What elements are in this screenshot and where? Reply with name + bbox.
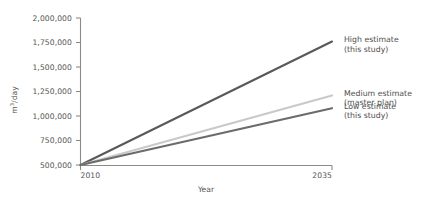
y-tick-label: 750,000 xyxy=(40,136,72,145)
line-chart: 500,000750,0001,000,0001,250,0001,500,00… xyxy=(0,0,427,204)
series-label-line1: High estimate xyxy=(344,35,399,44)
series-label-line2: (this study) xyxy=(344,45,388,54)
series-label-line1: Medium estimate xyxy=(344,89,412,98)
x-tick-label: 2010 xyxy=(81,171,101,180)
series-line xyxy=(81,108,333,165)
series-line xyxy=(81,95,333,165)
y-tick-label: 1,500,000 xyxy=(32,63,72,72)
y-tick-label: 500,000 xyxy=(40,161,72,170)
chart-container: 500,000750,0001,000,0001,250,0001,500,00… xyxy=(0,0,427,204)
x-axis-title: Year xyxy=(197,185,215,194)
y-tick-label: 2,000,000 xyxy=(32,14,72,23)
series-label-line1: Low estimate xyxy=(344,102,396,111)
x-axis-tick-labels: 20102035 xyxy=(81,171,333,180)
series-lines xyxy=(81,42,333,165)
y-tick-label: 1,000,000 xyxy=(32,112,72,121)
y-tick-label: 1,750,000 xyxy=(32,38,72,47)
x-tick-label: 2035 xyxy=(312,171,332,180)
series-line xyxy=(81,42,333,165)
y-tick-label: 1,250,000 xyxy=(32,87,72,96)
y-axis-tick-labels: 500,000750,0001,000,0001,250,0001,500,00… xyxy=(32,14,72,170)
series-labels: High estimate(this study)Medium estimate… xyxy=(344,35,412,120)
y-axis-title: m3/day xyxy=(9,86,19,114)
y-axis-ticks xyxy=(76,18,81,165)
series-label-line2: (this study) xyxy=(344,111,388,120)
x-axis-ticks xyxy=(81,166,333,171)
